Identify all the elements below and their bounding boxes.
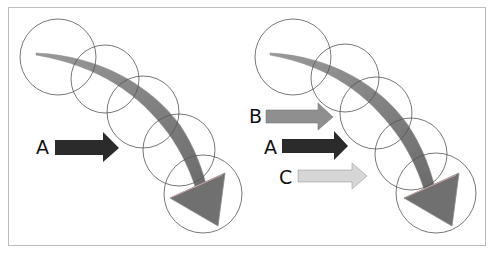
circle-3 xyxy=(340,77,412,149)
arrow-b xyxy=(266,103,333,130)
diagram-canvas xyxy=(0,0,495,254)
left-panel xyxy=(20,19,242,233)
arrow-c xyxy=(298,163,367,189)
curved-arrow-shaft xyxy=(36,53,208,196)
label-b: B xyxy=(249,107,262,126)
label-c: C xyxy=(279,168,292,187)
label-a-right: A xyxy=(264,138,277,157)
label-a-left: A xyxy=(36,138,49,157)
arrow-a-left xyxy=(55,132,119,162)
arrow-a-right xyxy=(282,131,348,160)
right-panel xyxy=(255,19,476,233)
